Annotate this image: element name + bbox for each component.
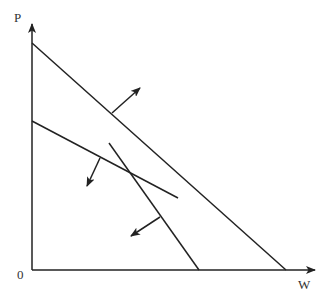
line-3 xyxy=(109,143,199,270)
shift-arrow-icon xyxy=(87,158,100,186)
diagram: P W 0 xyxy=(0,0,331,302)
shift-arrow-icon xyxy=(112,88,140,113)
y-axis-label: P xyxy=(14,10,21,25)
line-1 xyxy=(32,43,286,270)
x-axis-label: W xyxy=(298,277,311,292)
origin-label: 0 xyxy=(17,267,24,282)
shift-arrow-icon xyxy=(131,217,160,236)
line-2 xyxy=(32,121,178,198)
